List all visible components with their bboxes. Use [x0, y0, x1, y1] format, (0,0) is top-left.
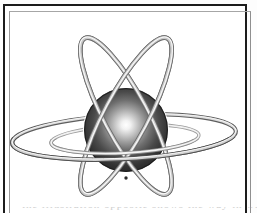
atom-diagram-svg	[5, 6, 245, 206]
orbit-crossing-node	[124, 176, 127, 179]
caption-sliver-text: the illustration opposite shows the way …	[22, 207, 237, 210]
figure-root: the illustration opposite shows the way …	[0, 0, 257, 213]
caption-sliver: the illustration opposite shows the way …	[0, 207, 257, 213]
figure-artwork	[5, 6, 245, 206]
